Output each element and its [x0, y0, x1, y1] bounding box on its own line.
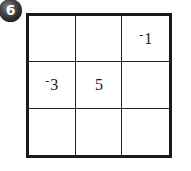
grid-cell-r3-c2[interactable]	[76, 109, 123, 155]
grid-cell-r1-c2[interactable]	[76, 16, 123, 62]
grid-cell-r2-c3[interactable]	[122, 62, 169, 108]
grid-cell-r2-c2[interactable]: 5	[76, 62, 123, 108]
problem-number: 6	[6, 2, 16, 18]
cell-value: 5	[95, 76, 103, 94]
grid-cell-r2-c1[interactable]: -3	[29, 62, 76, 108]
grid-cell-r3-c1[interactable]	[29, 109, 76, 155]
magic-square-grid: -1 -3 5	[26, 13, 172, 158]
cell-value: 3	[50, 76, 58, 94]
minus-sign: -	[139, 28, 143, 43]
cell-value: 1	[144, 30, 152, 48]
problem-number-badge: 6	[0, 0, 22, 22]
grid-cell-r1-c1[interactable]	[29, 16, 76, 62]
grid-cell-r1-c3[interactable]: -1	[122, 16, 169, 62]
minus-sign: -	[45, 74, 49, 89]
grid-cell-r3-c3[interactable]	[122, 109, 169, 155]
